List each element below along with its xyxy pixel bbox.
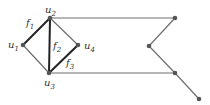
edge-u2-u3 [49,18,50,73]
face-label-f1: f1 [25,17,34,31]
node-u4 [76,43,81,48]
label-u2: u2 [45,4,56,18]
edge-r2-r3 [149,46,175,73]
graph-diagram: u1u2u3u4f1f2f3 [0,0,210,105]
label-u3: u3 [44,77,55,91]
node-r2 [147,44,152,49]
node-r3 [173,71,178,76]
node-r4 [197,97,202,102]
node-r1 [173,16,178,21]
node-u3 [47,71,52,76]
face-label-f2: f2 [52,40,62,54]
face-label-f3: f3 [65,57,75,71]
edge-r1-r2 [149,18,175,46]
edge-u1-u3 [23,45,49,73]
node-u1 [21,43,26,48]
label-u1: u1 [8,39,19,53]
labels: u1u2u3u4f1f2f3 [8,4,95,91]
nodes [21,16,202,102]
label-u4: u4 [84,40,95,54]
edge-r3-r4 [175,73,199,99]
